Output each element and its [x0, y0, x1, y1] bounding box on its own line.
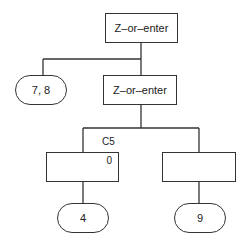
right-child-node	[162, 152, 236, 182]
leaf-node-4: 4	[57, 203, 109, 233]
leaf-node-7-8: 7, 8	[15, 75, 67, 105]
edge-label-c5: C5	[102, 136, 115, 147]
leaf-label: 9	[197, 212, 203, 224]
root-node-label: Z–or–enter	[115, 22, 169, 34]
root-node: Z–or–enter	[105, 13, 178, 43]
leaf-label: 7, 8	[32, 84, 50, 96]
leaf-node-9: 9	[174, 203, 226, 233]
leaf-label: 4	[80, 212, 86, 224]
inner-node-label: Z–or–enter	[113, 84, 167, 96]
inner-node: Z–or–enter	[103, 75, 177, 105]
corner-value: 0	[106, 155, 112, 166]
left-child-node: 0	[46, 152, 119, 182]
